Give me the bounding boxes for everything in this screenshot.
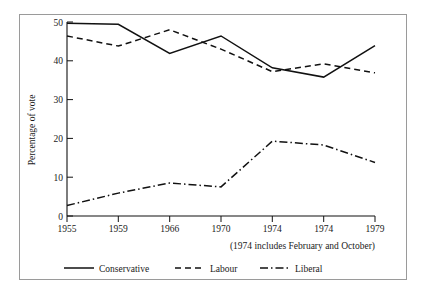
- x-tick-label-1974a: 1974: [263, 224, 282, 234]
- y-tick-label-20: 20: [54, 134, 64, 144]
- y-axis-tick-labels: 50 40 30 20 10 0: [54, 18, 64, 222]
- y-tick-label-0: 0: [58, 212, 63, 222]
- x-axis-ticks: [67, 216, 375, 222]
- x-tick-label-1959: 1959: [109, 224, 128, 234]
- chart-legend: Conservative Labour Liberal: [64, 264, 323, 274]
- x-axis-tick-labels: 1955 1959 1966 1970 1974 1974 1979: [58, 224, 385, 234]
- x-tick-label-1974b: 1974: [314, 224, 333, 234]
- y-axis-title: Percentage of vote: [27, 95, 37, 166]
- y-tick-label-30: 30: [54, 95, 64, 105]
- chart-caption-note: (1974 includes February and October): [230, 241, 375, 252]
- x-tick-label-1979: 1979: [366, 224, 385, 234]
- legend-label-conservative: Conservative: [99, 264, 149, 274]
- y-axis-ticks: [67, 22, 73, 216]
- x-tick-label-1966: 1966: [160, 224, 179, 234]
- y-tick-label-10: 10: [54, 173, 64, 183]
- series-line-conservative: [67, 23, 375, 77]
- y-tick-label-50: 50: [54, 18, 64, 28]
- x-tick-label-1955: 1955: [58, 224, 77, 234]
- series-line-liberal: [67, 141, 375, 205]
- legend-label-labour: Labour: [210, 264, 238, 274]
- series-group: [67, 23, 375, 205]
- chart-figure-frame: Percentage of vote 50 40 30 20 10 0: [19, 14, 407, 280]
- y-tick-label-40: 40: [54, 56, 64, 66]
- vote-percentage-line-chart: Percentage of vote 50 40 30 20 10 0: [20, 15, 406, 279]
- x-tick-label-1970: 1970: [212, 224, 231, 234]
- legend-label-liberal: Liberal: [295, 264, 323, 274]
